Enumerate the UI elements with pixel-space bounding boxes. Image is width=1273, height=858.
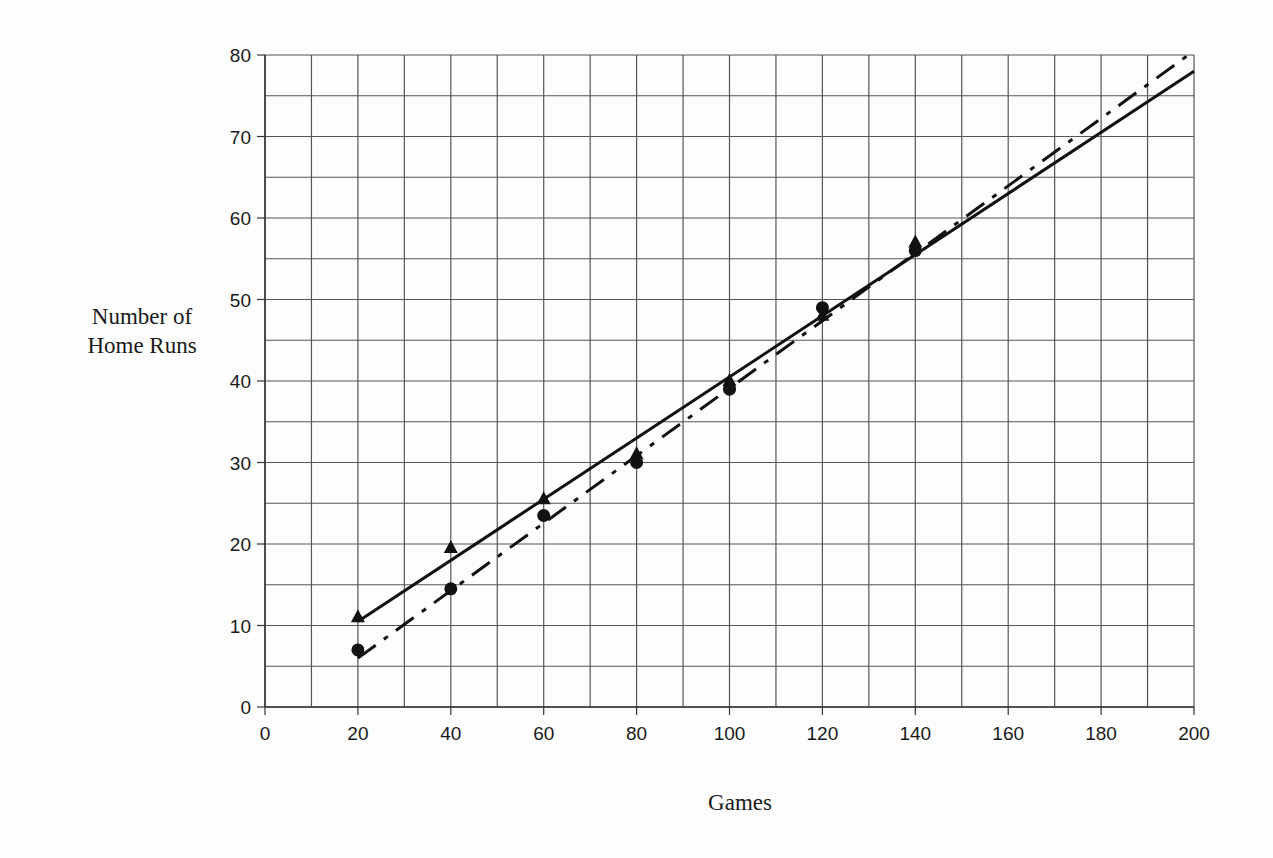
x-tick-label: 40 (440, 723, 461, 744)
y-tick-label: 70 (230, 127, 251, 148)
triangle-marker (351, 609, 365, 622)
y-axis-title-line2: Home Runs (87, 333, 196, 358)
x-tick-label: 120 (807, 723, 839, 744)
y-tick-label: 80 (230, 45, 251, 66)
y-tick-label: 30 (230, 453, 251, 474)
y-tick-label: 10 (230, 616, 251, 637)
circle-marker (723, 383, 736, 396)
circle-marker (537, 509, 550, 522)
y-tick-labels: 01020304050607080 (230, 45, 251, 718)
x-tick-labels: 020406080100120140160180200 (260, 723, 1210, 744)
triangle-marker (444, 540, 458, 553)
x-tick-label: 60 (533, 723, 554, 744)
circle-marker (816, 301, 829, 314)
home-runs-chart: 020406080100120140160180200 010203040506… (0, 0, 1273, 858)
circle-marker (351, 643, 364, 656)
x-tick-label: 180 (1085, 723, 1117, 744)
circle-marker (630, 456, 643, 469)
y-tick-label: 20 (230, 534, 251, 555)
y-tick-label: 0 (240, 697, 251, 718)
y-axis-title-line1: Number of (92, 304, 193, 329)
x-tick-label: 100 (714, 723, 746, 744)
y-tick-label: 50 (230, 290, 251, 311)
x-tick-label: 160 (992, 723, 1024, 744)
circle-marker (444, 582, 457, 595)
y-tick-label: 40 (230, 371, 251, 392)
y-tick-label: 60 (230, 208, 251, 229)
x-tick-label: 140 (899, 723, 931, 744)
circle-marker (909, 244, 922, 257)
x-tick-label: 20 (347, 723, 368, 744)
x-tick-label: 80 (626, 723, 647, 744)
x-axis-title: Games (708, 790, 772, 815)
x-tick-label: 200 (1178, 723, 1210, 744)
x-tick-label: 0 (260, 723, 271, 744)
